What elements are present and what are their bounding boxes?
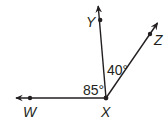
label-w: W [23, 104, 38, 120]
point-x [104, 96, 109, 101]
point-z [148, 32, 152, 36]
point-y [98, 18, 102, 22]
label-y: Y [86, 14, 97, 30]
point-w [28, 96, 32, 100]
label-x: X [100, 104, 111, 120]
angle-diagram: X W Y Z 85° 40° [0, 0, 168, 124]
label-z: Z [153, 32, 163, 48]
angle-label-yxz: 40° [107, 62, 128, 78]
angle-label-wxy: 85° [83, 82, 104, 98]
